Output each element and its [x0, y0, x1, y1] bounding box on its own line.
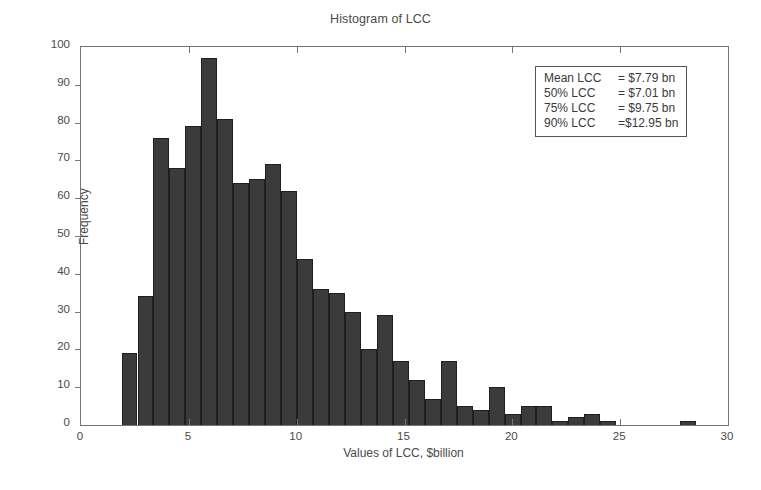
histogram-figure: Histogram of LCC Frequency 0102030405060… [0, 0, 761, 490]
stats-key: 50% LCC [544, 86, 618, 101]
histogram-bar [568, 417, 584, 425]
x-axis-tick-label: 15 [384, 430, 424, 442]
y-axis-tick [75, 85, 81, 86]
y-axis-tick [75, 349, 81, 350]
x-axis-tick [189, 419, 190, 425]
x-axis-tick-label: 30 [707, 430, 747, 442]
stats-key: 75% LCC [544, 101, 618, 116]
histogram-bar [521, 406, 537, 425]
x-axis-tick [620, 419, 621, 425]
histogram-bar [138, 296, 154, 425]
chart-title: Histogram of LCC [0, 12, 761, 26]
y-axis-tick-label: 100 [18, 38, 70, 50]
y-axis-tick-label: 60 [18, 189, 70, 201]
histogram-bar [584, 414, 600, 425]
histogram-bar [313, 289, 329, 425]
histogram-bar [297, 259, 313, 425]
stats-value: =$12.95 bn [618, 116, 678, 131]
stats-row: 90% LCC=$12.95 bn [544, 116, 678, 131]
histogram-bar [281, 191, 297, 425]
y-axis-tick [75, 387, 81, 388]
x-axis-tick-top [620, 47, 621, 53]
x-axis-tick [297, 419, 298, 425]
stats-key: 90% LCC [544, 116, 618, 131]
histogram-bar [409, 380, 425, 425]
stats-annotation-box: Mean LCC= $7.79 bn50% LCC= $7.01 bn75% L… [535, 66, 687, 137]
histogram-bar [536, 406, 552, 425]
histogram-bar [345, 312, 361, 425]
histogram-bar [600, 421, 616, 425]
x-axis-tick-top [405, 47, 406, 53]
histogram-bar [489, 387, 505, 425]
y-axis-tick-label: 90 [18, 76, 70, 88]
histogram-bar [473, 410, 489, 425]
histogram-bar [329, 293, 345, 425]
histogram-bar [680, 421, 696, 425]
stats-value: = $7.79 bn [618, 71, 675, 86]
y-axis-tick-label: 20 [18, 340, 70, 352]
histogram-bar [377, 315, 393, 425]
y-axis-tick-label: 40 [18, 265, 70, 277]
histogram-bar [393, 361, 409, 425]
histogram-bar [425, 399, 441, 425]
y-axis-tick-label: 70 [18, 151, 70, 163]
histogram-bar [265, 164, 281, 425]
y-axis-tick [75, 312, 81, 313]
x-axis-tick-label: 25 [599, 430, 639, 442]
stats-value: = $9.75 bn [618, 101, 675, 116]
x-axis-tick-top [297, 47, 298, 53]
y-axis-tick-label: 10 [18, 378, 70, 390]
histogram-bar [249, 179, 265, 425]
x-axis-tick [512, 419, 513, 425]
x-axis-tick-top [512, 47, 513, 53]
histogram-bar [185, 126, 201, 425]
x-axis-label: Values of LCC, $billion [80, 446, 727, 460]
stats-key: Mean LCC [544, 71, 618, 86]
x-axis-tick-label: 5 [168, 430, 208, 442]
histogram-bar [457, 406, 473, 425]
stats-row: 50% LCC= $7.01 bn [544, 86, 678, 101]
y-axis-tick-label: 50 [18, 227, 70, 239]
histogram-bar [153, 138, 169, 425]
y-axis-tick [75, 236, 81, 237]
x-axis-tick-top [189, 47, 190, 53]
histogram-bar [361, 349, 377, 425]
y-axis-tick-label: 80 [18, 114, 70, 126]
y-axis-tick [75, 123, 81, 124]
histogram-bar [122, 353, 138, 425]
stats-value: = $7.01 bn [618, 86, 675, 101]
x-axis-tick-label: 20 [491, 430, 531, 442]
y-axis-tick [75, 198, 81, 199]
histogram-bar [217, 119, 233, 425]
y-axis-tick-label: 30 [18, 303, 70, 315]
x-axis-tick [405, 419, 406, 425]
histogram-bar [169, 168, 185, 425]
y-axis-tick-label: 0 [18, 416, 70, 428]
x-axis-tick-label: 0 [60, 430, 100, 442]
x-axis-tick-label: 10 [276, 430, 316, 442]
histogram-bar [233, 183, 249, 425]
histogram-bar [552, 421, 568, 425]
y-axis-tick [75, 274, 81, 275]
y-axis-tick [75, 160, 81, 161]
histogram-bar [201, 58, 217, 425]
stats-row: Mean LCC= $7.79 bn [544, 71, 678, 86]
histogram-bar [441, 361, 457, 425]
stats-row: 75% LCC= $9.75 bn [544, 101, 678, 116]
